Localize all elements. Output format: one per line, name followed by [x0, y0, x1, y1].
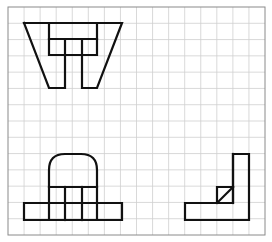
projection-diagram: [0, 0, 272, 242]
front-view-edge: [24, 203, 122, 220]
grid: [8, 7, 265, 235]
side-view-edge: [217, 187, 233, 203]
front-view: [24, 154, 122, 220]
